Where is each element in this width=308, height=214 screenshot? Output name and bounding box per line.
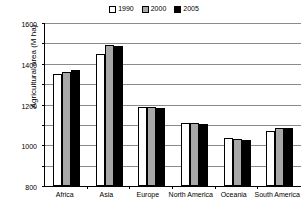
category-label: Africa	[44, 190, 86, 199]
category-divider	[129, 186, 130, 189]
bar-groups	[45, 23, 301, 186]
agricultural-area-bar-chart: 1990 2000 2005 Agricultural area (M ha) …	[0, 0, 308, 214]
bar-2000	[275, 128, 284, 186]
bar-group	[130, 23, 173, 186]
plot-area: 02004006008001000120014001600	[44, 23, 301, 187]
category-label: Europe	[127, 190, 169, 199]
legend-swatch-2000	[142, 6, 149, 13]
bar-2005	[156, 108, 165, 186]
category-label: South America	[254, 190, 300, 199]
y-tick-label: 1000	[21, 143, 37, 150]
bar-2005	[71, 70, 80, 186]
y-tick-label: 1200	[21, 102, 37, 109]
legend-label-2000: 2000	[151, 5, 167, 13]
bar-1990	[138, 107, 147, 186]
category-label: Asia	[86, 190, 128, 199]
bar-1990	[266, 131, 275, 186]
category-divider	[257, 186, 258, 189]
category-label: North America	[169, 190, 213, 199]
bar-2000	[62, 72, 71, 186]
chart-legend: 1990 2000 2005	[0, 5, 308, 13]
y-tick-label: 1600	[21, 21, 37, 28]
bar-2000	[233, 139, 242, 186]
bar-2000	[147, 107, 156, 186]
bar-1990	[96, 54, 105, 186]
bar-group	[45, 23, 88, 186]
bar-group	[88, 23, 131, 186]
legend-entry-1990: 1990	[109, 5, 134, 13]
bar-2005	[199, 124, 208, 186]
bar-1990	[224, 138, 233, 186]
legend-label-1990: 1990	[118, 5, 134, 13]
y-tick-label: 1400	[21, 61, 37, 68]
bar-1990	[181, 123, 190, 186]
legend-swatch-2005	[174, 6, 181, 13]
bar-2005	[284, 128, 293, 186]
category-label: Oceania	[213, 190, 255, 199]
bar-group	[173, 23, 216, 186]
category-divider	[87, 186, 88, 189]
legend-swatch-1990	[109, 6, 116, 13]
y-tick-label: 800	[25, 184, 37, 191]
legend-label-2005: 2005	[183, 5, 199, 13]
y-tick-mark: 0	[42, 186, 45, 187]
legend-entry-2000: 2000	[142, 5, 167, 13]
bar-2005	[114, 46, 123, 186]
category-divider	[172, 186, 173, 189]
bar-1990	[53, 74, 62, 186]
x-axis-category-labels: AfricaAsiaEuropeNorth AmericaOceaniaSout…	[44, 190, 300, 199]
bar-2000	[190, 123, 199, 186]
bar-2005	[242, 140, 251, 186]
category-divider	[215, 186, 216, 189]
legend-entry-2005: 2005	[174, 5, 199, 13]
bar-group	[216, 23, 259, 186]
bar-group	[258, 23, 301, 186]
bar-2000	[105, 45, 114, 186]
